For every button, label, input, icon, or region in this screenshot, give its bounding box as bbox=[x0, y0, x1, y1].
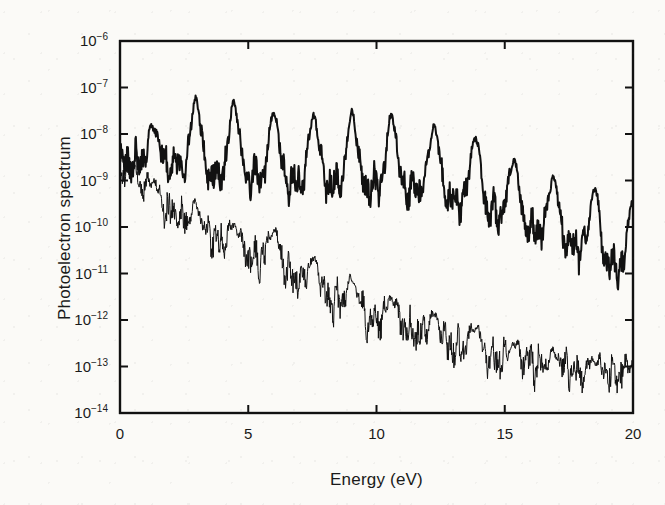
y-tick-label: 10−12 bbox=[20, 310, 108, 328]
y-tick-label: 10−6 bbox=[20, 31, 108, 49]
y-tick-label: 10−10 bbox=[20, 217, 108, 235]
y-tick-label: 10−11 bbox=[20, 264, 108, 282]
figure-container: Photoelectron spectrum Energy (eV) 10−61… bbox=[0, 0, 665, 505]
y-tick-label: 10−13 bbox=[20, 357, 108, 375]
y-tick-label: 10−7 bbox=[20, 78, 108, 96]
x-tick-label: 10 bbox=[347, 425, 407, 442]
x-tick-label: 0 bbox=[90, 425, 150, 442]
y-tick-label: 10−14 bbox=[20, 403, 108, 421]
x-axis-title: Energy (eV) bbox=[120, 470, 633, 490]
x-tick-label: 5 bbox=[218, 425, 278, 442]
y-tick-label: 10−9 bbox=[20, 171, 108, 189]
x-tick-label: 15 bbox=[475, 425, 535, 442]
x-tick-label: 20 bbox=[603, 425, 663, 442]
y-tick-label: 10−8 bbox=[20, 124, 108, 142]
